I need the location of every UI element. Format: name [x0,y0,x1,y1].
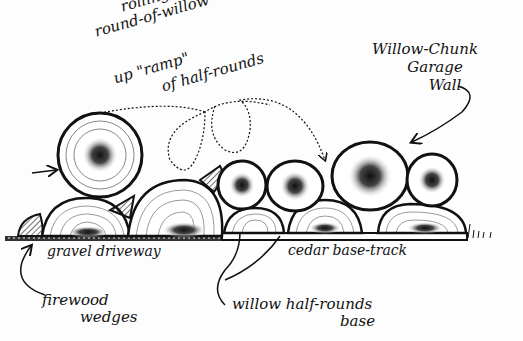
label-wall-line2: Garage [372,58,478,76]
label-wall: Willow-Chunk Garage Wall [372,40,478,94]
label-cedar: cedar base-track [288,243,407,257]
label-halfrounds: willow half-rounds base [232,296,375,330]
push-arrow [32,170,56,173]
label-wall-line1: Willow-Chunk [372,40,478,58]
gravel-callout-arrow [21,246,45,295]
wall-callout-arrow [412,86,470,142]
label-wall-line3: Wall [372,76,478,94]
label-firewood-line1: firewood [42,292,138,309]
label-firewood-line2: wedges [42,309,138,326]
rolling-round [58,113,142,197]
grass [468,224,491,238]
willow-wall-diagram: rolling a round-of-willow up "ramp" of h… [0,0,523,341]
label-gravel: gravel driveway [47,244,161,258]
label-firewood: firewood wedges [42,292,138,326]
label-halfrounds-line1: willow half-rounds [232,296,375,313]
label-halfrounds-line2: base [232,313,375,330]
